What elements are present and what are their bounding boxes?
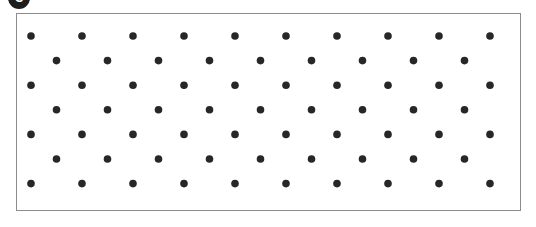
- lattice-dot: [180, 32, 188, 40]
- lattice-panel: [16, 13, 521, 211]
- lattice-dot: [257, 155, 265, 163]
- lattice-dot: [27, 180, 35, 188]
- lattice-dot: [180, 81, 188, 89]
- lattice-dot: [27, 32, 35, 40]
- lattice-dot: [359, 57, 367, 65]
- lattice-dot: [155, 106, 163, 114]
- lattice-dot: [231, 32, 239, 40]
- lattice-dot: [231, 131, 239, 139]
- lattice-dot: [104, 57, 112, 65]
- lattice-dot: [486, 32, 494, 40]
- lattice-dot: [231, 81, 239, 89]
- lattice-dot: [129, 32, 137, 40]
- lattice-dot: [333, 131, 341, 139]
- lattice-dot: [206, 155, 214, 163]
- lattice-dot: [129, 81, 137, 89]
- lattice-dot: [78, 131, 86, 139]
- lattice-dot: [282, 32, 290, 40]
- lattice-dot: [129, 131, 137, 139]
- lattice-dot: [410, 155, 418, 163]
- dot-lattice: [17, 14, 520, 210]
- lattice-dot: [180, 180, 188, 188]
- lattice-dot: [359, 106, 367, 114]
- lattice-dot: [155, 57, 163, 65]
- figure-root: C: [0, 0, 536, 227]
- lattice-dot: [129, 180, 137, 188]
- lattice-dot: [308, 57, 316, 65]
- lattice-dot: [333, 32, 341, 40]
- lattice-dot: [53, 106, 61, 114]
- lattice-dot: [384, 131, 392, 139]
- lattice-dot: [282, 81, 290, 89]
- lattice-dot: [486, 180, 494, 188]
- lattice-dot: [104, 155, 112, 163]
- lattice-dot: [78, 32, 86, 40]
- lattice-dot: [410, 57, 418, 65]
- lattice-dot: [155, 155, 163, 163]
- lattice-dot: [384, 32, 392, 40]
- lattice-dot: [308, 106, 316, 114]
- panel-label-badge: C: [8, 0, 30, 9]
- lattice-dot: [282, 131, 290, 139]
- lattice-dot: [206, 106, 214, 114]
- lattice-dot: [359, 155, 367, 163]
- lattice-dot: [384, 180, 392, 188]
- lattice-dot: [282, 180, 290, 188]
- lattice-dot: [461, 155, 469, 163]
- lattice-dot: [486, 81, 494, 89]
- lattice-dot: [257, 57, 265, 65]
- lattice-dot: [27, 131, 35, 139]
- lattice-dot: [486, 131, 494, 139]
- lattice-dot: [435, 81, 443, 89]
- lattice-dot: [461, 106, 469, 114]
- lattice-dot: [78, 180, 86, 188]
- lattice-dot: [104, 106, 112, 114]
- dot-group: [27, 32, 494, 187]
- lattice-dot: [461, 57, 469, 65]
- lattice-dot: [53, 57, 61, 65]
- lattice-dot: [308, 155, 316, 163]
- lattice-dot: [53, 155, 61, 163]
- lattice-dot: [206, 57, 214, 65]
- lattice-dot: [384, 81, 392, 89]
- lattice-dot: [180, 131, 188, 139]
- lattice-dot: [435, 180, 443, 188]
- lattice-dot: [435, 32, 443, 40]
- lattice-dot: [78, 81, 86, 89]
- lattice-dot: [435, 131, 443, 139]
- lattice-dot: [231, 180, 239, 188]
- lattice-dot: [333, 81, 341, 89]
- lattice-dot: [333, 180, 341, 188]
- lattice-dot: [27, 81, 35, 89]
- lattice-dot: [410, 106, 418, 114]
- lattice-dot: [257, 106, 265, 114]
